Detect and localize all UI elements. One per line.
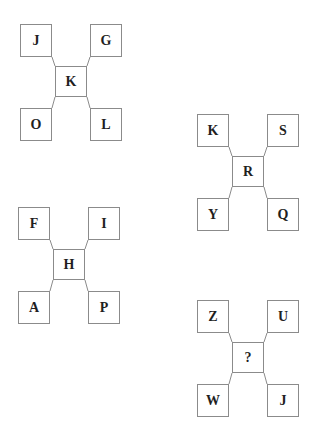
letter-box-top-left: Z [197,300,229,333]
letter-box-top-right: U [267,300,299,333]
letter-box-bottom-left: O [20,108,52,141]
letter-cross-cluster-4: Z U ? W J [197,300,299,417]
letter-box-top-right: S [267,114,299,147]
letter-cross-cluster-3: F I H A P [18,207,120,324]
letter-box-bottom-left: Y [197,198,229,231]
letter-cross-cluster-2: K S R Y Q [197,114,299,231]
letter-box-bottom-right: Q [267,198,299,231]
letter-box-top-left: F [18,207,50,240]
letter-cross-cluster-1: J G K O L [20,24,122,141]
letter-box-bottom-right: L [90,108,122,141]
letter-box-bottom-right: P [88,291,120,324]
letter-box-top-right: G [90,24,122,57]
puzzle-canvas: J G K O L K S R Y Q F I H A P [0,0,325,438]
letter-box-center: H [53,249,85,280]
letter-box-top-left: J [20,24,52,57]
letter-box-bottom-right: J [267,384,299,417]
letter-box-center-unknown: ? [232,342,264,373]
letter-box-top-left: K [197,114,229,147]
letter-box-bottom-left: A [18,291,50,324]
letter-box-bottom-left: W [197,384,229,417]
letter-box-center: R [232,156,264,187]
letter-box-top-right: I [88,207,120,240]
letter-box-center: K [55,66,87,97]
